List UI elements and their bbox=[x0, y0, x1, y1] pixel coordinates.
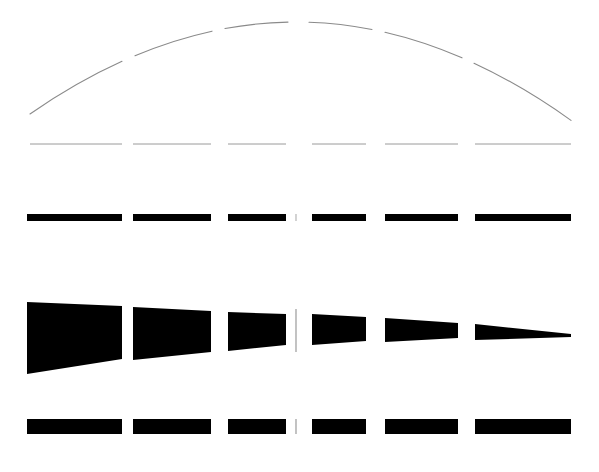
upper-bar-segment-2 bbox=[133, 214, 211, 221]
wedge-segment-3 bbox=[228, 312, 286, 351]
background bbox=[0, 0, 599, 472]
lower-bar-segment-4 bbox=[312, 419, 366, 434]
upper-bar-segment-5 bbox=[385, 214, 458, 221]
upper-bar-segment-1 bbox=[27, 214, 122, 221]
diagram-svg bbox=[0, 0, 599, 472]
lower-bar-segment-3 bbox=[228, 419, 286, 434]
upper-bar-segment-6 bbox=[475, 214, 571, 221]
upper-bar-segment-4 bbox=[312, 214, 366, 221]
wedge-segment-2 bbox=[133, 307, 211, 360]
lower-bar-segment-2 bbox=[133, 419, 211, 434]
wedge-segment-4 bbox=[312, 314, 366, 345]
lower-bar-segment-5 bbox=[385, 419, 458, 434]
figure-canvas bbox=[0, 0, 599, 472]
lower-bar-segment-1 bbox=[27, 419, 122, 434]
lower-bar-segment-6 bbox=[475, 419, 571, 434]
upper-bar-segment-3 bbox=[228, 214, 286, 221]
